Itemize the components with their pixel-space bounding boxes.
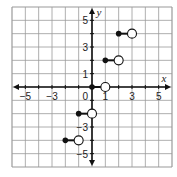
x-axis-arrow-right-icon (165, 84, 171, 90)
origin-label: 0 (82, 91, 88, 102)
y-axis-arrow-up-icon (89, 8, 95, 14)
x-axis-label: x (161, 72, 167, 84)
y-tick-label: 3 (82, 42, 88, 53)
y-tick-label: 5 (82, 15, 88, 26)
closed-point-icon (63, 138, 69, 144)
closed-point-icon (89, 84, 95, 90)
closed-point-icon (76, 111, 82, 117)
y-axis-label: y (96, 6, 102, 18)
y-tick-label: 1 (82, 69, 88, 80)
y-axis-arrow-down-icon (89, 160, 95, 166)
x-tick-label: 1 (103, 91, 109, 102)
open-point-icon (101, 83, 110, 92)
step-function-graph: −5−3135531−3−50xy (0, 0, 177, 177)
x-axis-arrow-left-icon (13, 84, 19, 90)
x-tick-label: 5 (156, 91, 162, 102)
x-tick-label: 3 (129, 91, 135, 102)
open-point-icon (88, 109, 97, 118)
tick-labels: −5−3135531−3−50xy (20, 6, 167, 160)
x-tick-label: −5 (20, 91, 32, 102)
closed-point-icon (116, 31, 122, 37)
x-tick-label: −3 (46, 91, 58, 102)
open-point-icon (114, 56, 123, 65)
open-point-icon (128, 29, 137, 38)
open-point-icon (74, 136, 83, 145)
y-tick-label: −3 (77, 122, 89, 133)
y-tick-label: −5 (77, 149, 89, 160)
closed-point-icon (103, 58, 109, 64)
